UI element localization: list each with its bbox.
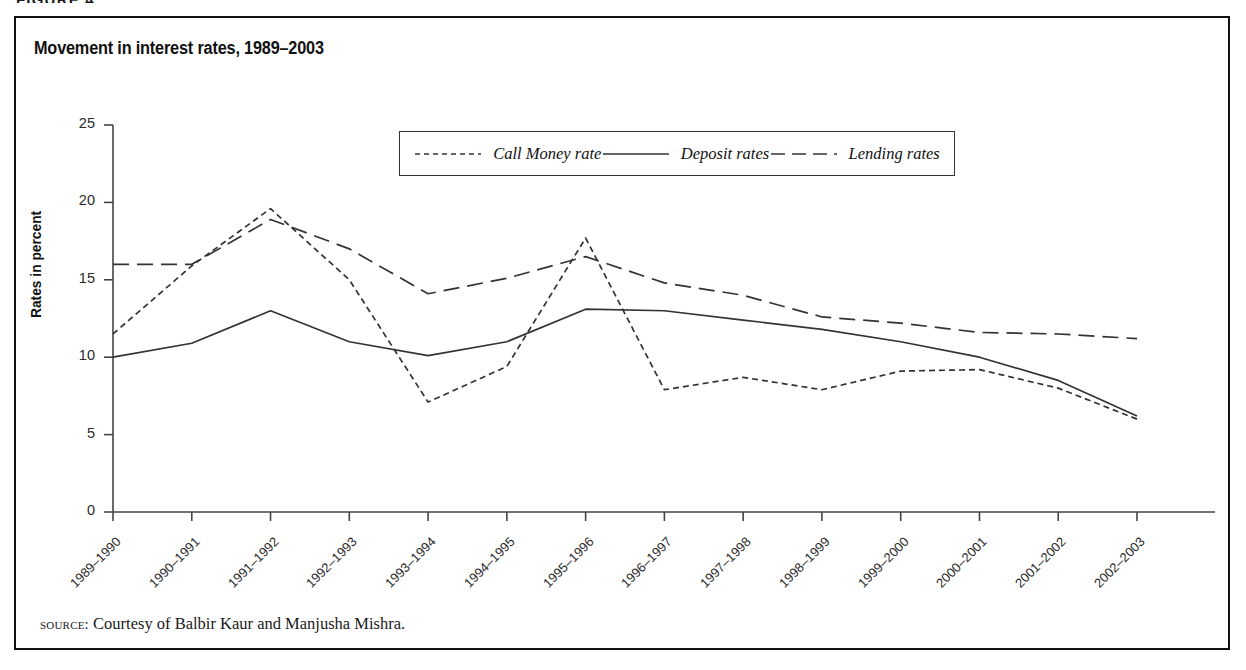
legend-item-lending: Lending rates	[770, 144, 940, 164]
source-note: source: Courtesy of Balbir Kaur and Manj…	[40, 614, 405, 634]
legend-label-lending: Lending rates	[849, 144, 940, 164]
y-tick-label: 10	[55, 347, 95, 363]
series-line-1	[113, 309, 1137, 416]
plot-area	[0, 0, 1246, 670]
legend-label-call-money: Call Money rate	[493, 144, 601, 164]
series-line-2	[113, 219, 1137, 338]
series-line-0	[113, 209, 1137, 420]
legend-item-deposit: Deposit rates	[602, 144, 769, 164]
source-text: Courtesy of Balbir Kaur and Manjusha Mis…	[93, 614, 405, 633]
y-tick-label: 5	[55, 425, 95, 441]
y-tick-label: 15	[55, 270, 95, 286]
y-tick-label: 20	[55, 192, 95, 208]
figure-stage: FIGURE 4 Movement in interest rates, 198…	[0, 0, 1246, 670]
legend-swatch-dotted	[414, 149, 482, 159]
source-prefix: source:	[40, 616, 89, 632]
chart-canvas	[0, 0, 1246, 670]
legend-swatch-solid	[602, 149, 670, 159]
legend-label-deposit: Deposit rates	[681, 144, 769, 164]
chart-legend: Call Money rate Deposit rates Lending ra…	[399, 131, 955, 176]
y-tick-label: 0	[55, 502, 95, 518]
legend-item-call-money: Call Money rate	[414, 144, 601, 164]
legend-swatch-dashed	[770, 149, 838, 159]
y-tick-label: 25	[55, 115, 95, 131]
